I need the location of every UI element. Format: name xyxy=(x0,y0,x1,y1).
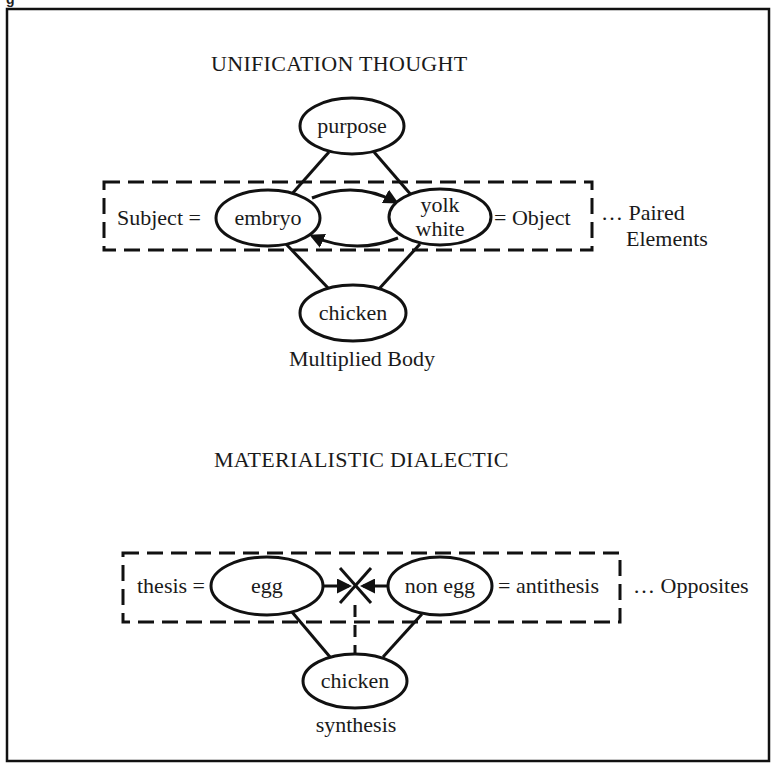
edge-egg-chicken xyxy=(292,612,330,657)
subject-label: Subject = xyxy=(117,205,201,230)
antithesis-label: = antithesis xyxy=(498,573,599,598)
node-purpose-label: purpose xyxy=(317,113,387,138)
node-egg-label: egg xyxy=(251,573,283,598)
node-white-label: white xyxy=(416,216,465,241)
node-chicken-synthesis-label: chicken xyxy=(321,668,389,693)
node-non-egg-label: non egg xyxy=(405,573,475,598)
object-label: = Object xyxy=(494,205,571,230)
edge-purpose-yolk xyxy=(374,152,412,196)
unification-title: UNIFICATION THOUGHT xyxy=(211,51,468,76)
synthesis-caption: synthesis xyxy=(316,712,397,737)
diagram-canvas: UNIFICATION THOUGHT purpose embryo yolk … xyxy=(0,0,775,770)
node-chicken-label: chicken xyxy=(319,300,387,325)
paired-label-line2: Elements xyxy=(626,226,708,251)
arrow-yolk-to-embryo xyxy=(312,236,398,246)
dialectic-title: MATERIALISTIC DIALECTIC xyxy=(214,447,509,472)
unification-thought-diagram: UNIFICATION THOUGHT purpose embryo yolk … xyxy=(104,51,708,371)
arrow-embryo-to-yolk xyxy=(312,190,396,202)
node-embryo-label: embryo xyxy=(234,205,301,230)
opposites-label: … Opposites xyxy=(633,573,749,598)
edge-purpose-embryo xyxy=(291,152,329,195)
edge-nonegg-chicken xyxy=(383,614,422,657)
materialistic-dialectic-diagram: MATERIALISTIC DIALECTIC egg non egg chic… xyxy=(123,447,749,737)
paired-label-line1: … Paired xyxy=(601,200,685,225)
thesis-label: thesis = xyxy=(137,573,205,598)
node-yolk-label: yolk xyxy=(420,192,459,217)
multiplied-body-caption: Multiplied Body xyxy=(289,346,435,371)
